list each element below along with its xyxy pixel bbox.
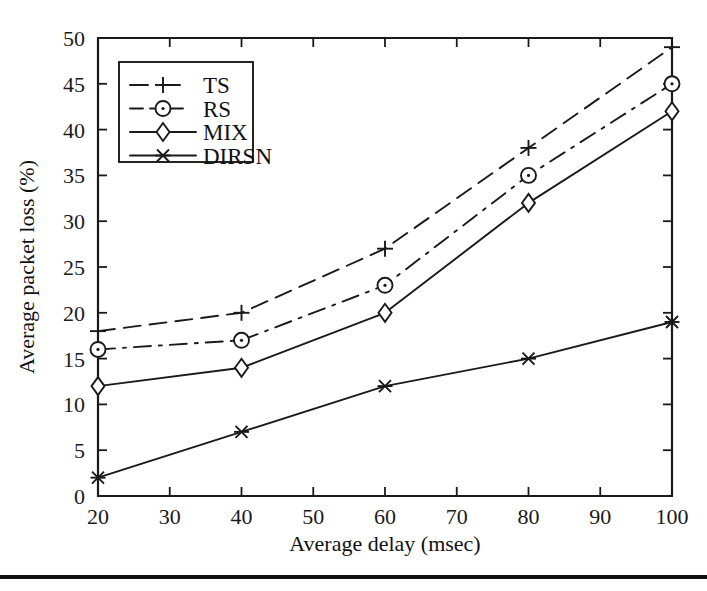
y-tick-label: 20: [63, 301, 85, 326]
y-tick-label: 35: [63, 163, 85, 188]
x-tick-label: 70: [446, 504, 468, 529]
x-tick-label: 20: [87, 504, 109, 529]
y-axis-title: Average packet loss (%): [14, 160, 39, 374]
y-tick-label: 50: [63, 26, 85, 51]
marker-rs-20: [91, 342, 106, 357]
y-tick-label: 25: [63, 255, 85, 280]
x-tick-label: 100: [656, 504, 689, 529]
chart-svg: 05101520253035404550 2030405060708090100…: [0, 0, 707, 591]
legend-label-dirsn: DIRSN: [203, 144, 272, 169]
marker-rs-60: [378, 278, 393, 293]
legend-label-ts: TS: [203, 73, 230, 98]
marker-rs-40: [234, 333, 249, 348]
y-tick-label: 5: [74, 438, 85, 463]
marker-rs-80: [521, 168, 536, 183]
legend-label-mix: MIX: [203, 120, 248, 145]
marker-rs-100: [665, 76, 680, 91]
chart-background: [0, 0, 707, 591]
x-tick-label: 40: [231, 504, 253, 529]
x-tick-label: 50: [302, 504, 324, 529]
y-tick-label: 10: [63, 392, 85, 417]
x-tick-label: 30: [159, 504, 181, 529]
y-tick-label: 15: [63, 347, 85, 372]
x-tick-label: 80: [518, 504, 540, 529]
y-tick-label: 45: [63, 72, 85, 97]
y-tick-label: 30: [63, 209, 85, 234]
x-tick-label: 90: [589, 504, 611, 529]
bottom-rule: [0, 575, 707, 579]
x-axis-tick-labels: 2030405060708090100: [87, 504, 689, 529]
figure-container: 05101520253035404550 2030405060708090100…: [0, 0, 707, 591]
y-tick-label: 40: [63, 118, 85, 143]
y-tick-label: 0: [74, 484, 85, 509]
x-tick-label: 60: [374, 504, 396, 529]
legend-marker-rs: [156, 101, 171, 116]
legend-label-rs: RS: [203, 97, 231, 122]
legend: TSRSMIXDIRSN: [119, 62, 272, 169]
x-axis-title: Average delay (msec): [289, 531, 480, 556]
